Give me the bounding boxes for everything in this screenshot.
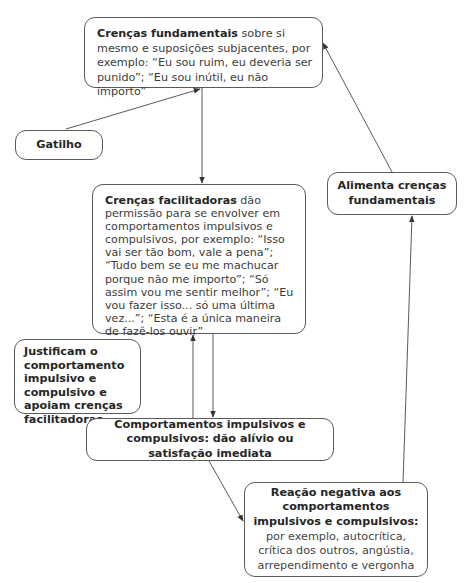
justify-box: Justificam o comportamento impulsivo e c… [14,339,141,414]
justify-label: Justificam o comportamento impulsivo e c… [24,345,124,426]
negative-reaction-text: por exemplo, autocrítica, crítica dos ou… [253,530,419,574]
negative-reaction-title: Reação negativa aos comportamentos impul… [253,486,419,530]
trigger-label: Gatilho [16,138,102,153]
arrow-feeds-to-core [323,43,392,172]
trigger-box: Gatilho [15,130,103,160]
facilitating-beliefs-box: Crenças facilitadoras dão permissão para… [92,184,306,334]
arrow-reaction-to-feeds [403,216,412,483]
feeds-core-label: Alimenta crenças fundamentais [334,179,450,208]
behaviors-label: Comportamentos impulsivos e compulsivos:… [93,418,327,462]
facilitating-title: Crenças facilitadoras [105,194,237,207]
arrow-behaviors-to-reaction [209,461,243,521]
core-beliefs-box: Crenças fundamentais sobre si mesmo e su… [84,17,323,88]
negative-reaction-box: Reação negativa aos comportamentos impul… [244,482,428,577]
feeds-core-beliefs-box: Alimenta crenças fundamentais [327,172,457,215]
behaviors-box: Comportamentos impulsivos e compulsivos:… [86,418,334,461]
core-beliefs-title: Crenças fundamentais [97,27,238,40]
facilitating-text: dão permissão para se envolver em compor… [105,194,293,338]
